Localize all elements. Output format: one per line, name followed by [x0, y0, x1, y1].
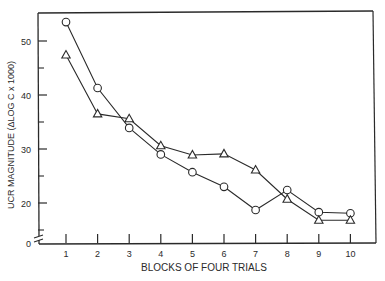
y-tick-label: 50 — [21, 37, 31, 47]
x-tick-label: 4 — [158, 249, 163, 259]
circle-marker-icon — [125, 124, 133, 132]
circle-marker-icon — [283, 186, 291, 194]
circle-marker-icon — [157, 151, 165, 159]
y-tick-label: 30 — [21, 145, 31, 155]
x-tick-label: 6 — [221, 249, 226, 259]
x-axis — [39, 243, 376, 244]
y-axis-ticks: 203040500 — [21, 37, 47, 250]
data-series — [62, 18, 355, 223]
circle-marker-icon — [62, 18, 70, 26]
series-triangles — [62, 51, 355, 224]
series-line — [66, 55, 350, 220]
circle-marker-icon — [189, 168, 197, 176]
x-tick-label: 3 — [127, 249, 132, 259]
x-axis-ticks: 12345678910 — [63, 234, 355, 259]
y-tick-label: 40 — [21, 91, 31, 101]
series-line — [66, 22, 350, 213]
triangle-marker-icon — [93, 109, 101, 117]
series-circles — [62, 18, 354, 217]
frame-right — [373, 11, 376, 243]
x-tick-label: 2 — [95, 249, 100, 259]
circle-marker-icon — [220, 183, 228, 191]
y-axis-label: UCR MAGNITUDE (ΔLOG C x 1000) — [6, 61, 16, 209]
x-tick-label: 7 — [253, 249, 258, 259]
x-axis-label: BLOCKS OF FOUR TRIALS — [141, 262, 267, 273]
triangle-marker-icon — [346, 216, 354, 224]
x-tick-label: 5 — [190, 249, 195, 259]
x-tick-label: 1 — [63, 249, 68, 259]
triangle-marker-icon — [251, 166, 259, 174]
frame-top — [38, 11, 373, 13]
circle-marker-icon — [252, 206, 260, 214]
line-chart: 203040500 12345678910 BLOCKS OF FOUR TRI… — [0, 0, 385, 281]
triangle-marker-icon — [315, 216, 323, 224]
triangle-marker-icon — [157, 141, 165, 149]
triangle-marker-icon — [220, 149, 228, 157]
circle-marker-icon — [94, 84, 102, 92]
x-tick-label: 10 — [345, 249, 355, 259]
y-tick-label: 20 — [21, 199, 31, 209]
plot-frame — [34, 11, 376, 244]
triangle-marker-icon — [62, 51, 70, 59]
y-tick-label-zero: 0 — [26, 239, 31, 249]
x-tick-label: 9 — [316, 249, 321, 259]
x-tick-label: 8 — [285, 249, 290, 259]
